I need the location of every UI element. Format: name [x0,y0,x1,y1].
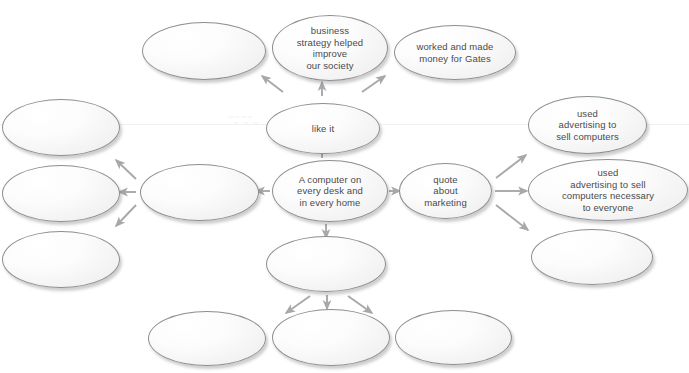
node-like-it[interactable]: like it [266,103,380,154]
node-quote-about-marketing[interactable]: quote about marketing [399,163,492,219]
node-right-lower-blank[interactable] [531,229,653,285]
arrow-like-it-to-top-left [262,76,283,92]
node-label: like it [306,123,340,135]
arrow-left-center-to-upper [116,160,136,179]
node-left-upper-blank[interactable] [2,99,120,156]
arrow-quote-to-right-lower [496,205,528,230]
node-top-left-blank[interactable] [142,22,266,80]
node-business-strategy[interactable]: business strategy helped improve our soc… [272,15,388,81]
node-label: business strategy helped improve our soc… [291,25,369,71]
node-worked-made-money[interactable]: worked and made money for Gates [394,25,516,80]
node-bottom-center-blank[interactable] [272,309,390,366]
node-center-lower-blank[interactable] [266,236,386,292]
arrow-like-it-to-worked [362,76,385,92]
node-left-center-blank[interactable] [140,164,259,221]
node-label: used advertising to sell computers [550,108,625,143]
watermark-text: ~~~~ [228,112,253,122]
arrow-quote-to-ads-sell [496,155,526,178]
watermark-text: ~ ~ ~ [233,118,259,128]
node-used-advertising-necessary[interactable]: used advertising to sell computers neces… [528,159,688,221]
arrow-left-center-to-lower [116,205,136,226]
node-label: used advertising to sell computers neces… [556,167,660,213]
concept-map-canvas: ~~~~~ ~ ~ business strategy helped impro… [0,0,689,373]
node-bottom-left-blank[interactable] [148,311,266,366]
node-computer-every-desk[interactable]: A computer on every desk and in every ho… [272,160,388,222]
node-left-lower-blank[interactable] [2,231,120,288]
node-bottom-right-blank[interactable] [395,310,512,365]
node-left-mid-blank[interactable] [2,165,120,222]
node-label: worked and made money for Gates [410,41,499,64]
node-used-advertising-sell[interactable]: used advertising to sell computers [528,96,647,154]
node-label: quote about marketing [418,174,473,209]
node-label: A computer on every desk and in every ho… [291,174,369,209]
